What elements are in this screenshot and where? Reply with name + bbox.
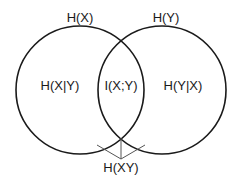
label-mutual-information: I(X;Y): [104, 78, 137, 93]
label-hx-given-y: H(X|Y): [41, 78, 80, 93]
label-hy-given-x: H(Y|X): [164, 78, 203, 93]
label-hx: H(X): [67, 10, 94, 25]
venn-diagram: H(X) H(Y) H(X|Y) I(X;Y) H(Y|X) H(XY): [0, 0, 241, 184]
label-hy: H(Y): [153, 10, 180, 25]
label-joint-entropy: H(XY): [103, 160, 138, 175]
